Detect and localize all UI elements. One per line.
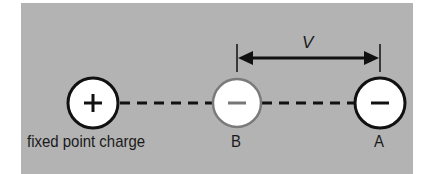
fixed-positive-charge — [68, 78, 118, 128]
point-a-label: A — [374, 133, 384, 150]
voltage-label: V — [302, 34, 313, 51]
fixed-charge-label: fixed point charge — [27, 133, 145, 150]
negative-charge-a — [355, 78, 405, 128]
negative-charge-b — [213, 79, 261, 127]
point-b-label: B — [231, 133, 241, 150]
